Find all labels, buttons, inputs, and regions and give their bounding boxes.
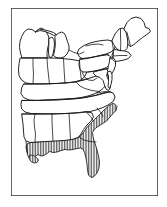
map-figure <box>0 0 167 207</box>
state-outline-midwest-band <box>19 58 88 84</box>
eastern-us-map-svg <box>0 0 167 207</box>
state-outline-wisconsin <box>20 28 50 58</box>
